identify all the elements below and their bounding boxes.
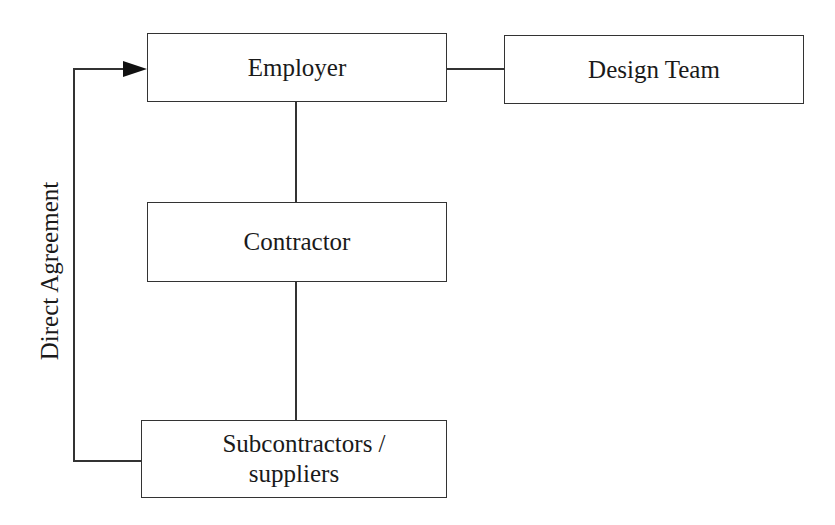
arrowhead-icon (123, 61, 147, 77)
direct-agreement-vertical-segment (73, 68, 75, 461)
edge-employer-design-team (446, 68, 504, 70)
node-subcontractors-label-line2: suppliers (249, 459, 339, 489)
direct-agreement-label: Direct Agreement (36, 181, 64, 361)
direct-agreement-top-segment (73, 68, 125, 70)
edge-contractor-subcontractors (295, 281, 297, 420)
node-employer: Employer (147, 33, 447, 102)
edge-employer-contractor (295, 101, 297, 202)
node-subcontractors-label-line1: Subcontractors / (222, 429, 385, 459)
node-design-team: Design Team (504, 35, 804, 104)
node-contractor-label: Contractor (244, 227, 351, 257)
node-employer-label: Employer (248, 53, 347, 83)
node-contractor: Contractor (147, 202, 447, 282)
node-subcontractors: Subcontractors / suppliers (141, 420, 447, 498)
node-design-team-label: Design Team (588, 55, 720, 85)
direct-agreement-bottom-segment (73, 460, 147, 462)
